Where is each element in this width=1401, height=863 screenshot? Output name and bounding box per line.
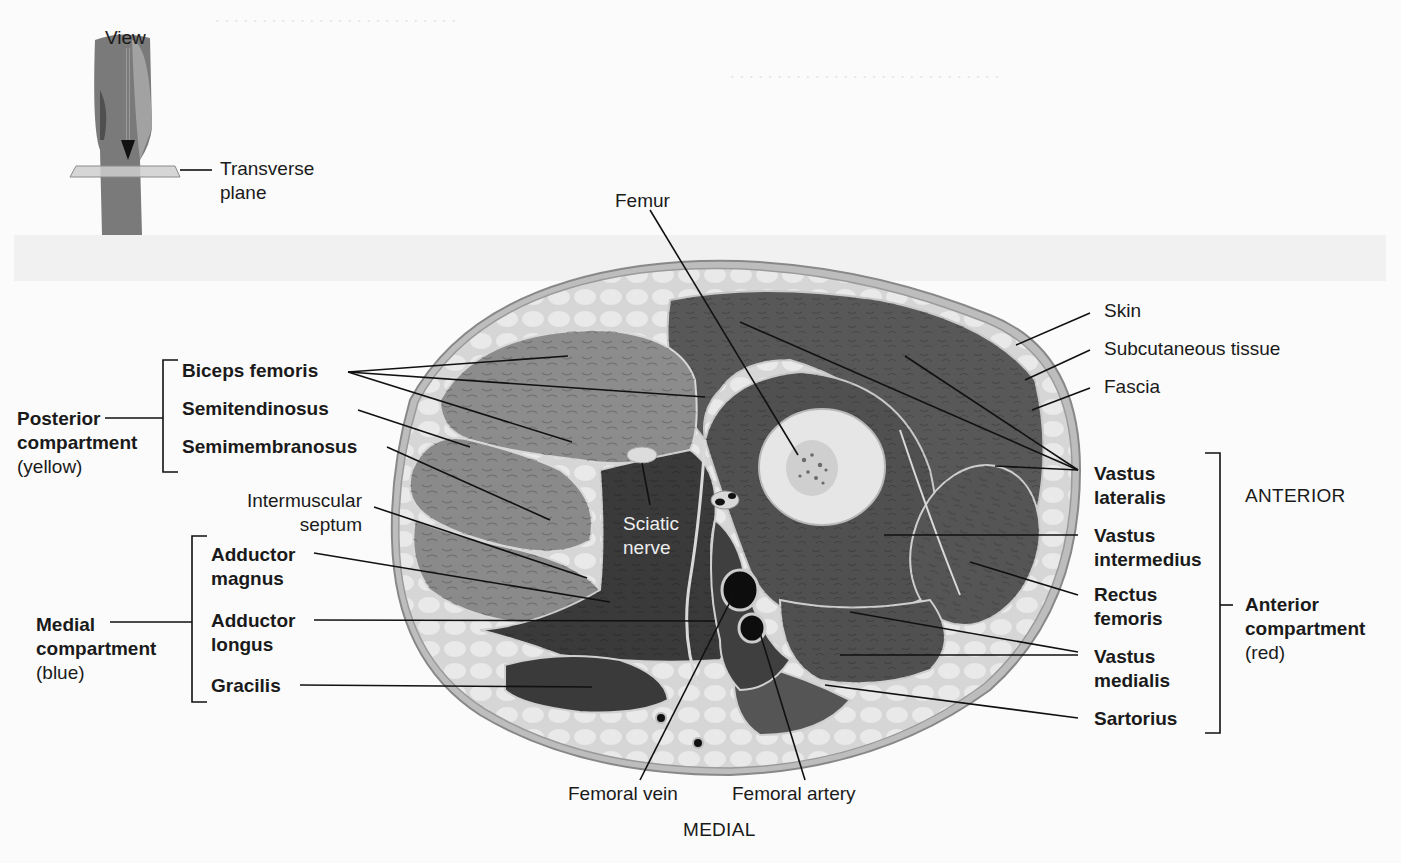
inset-leg-illustration xyxy=(70,34,212,235)
anatomy-illustration: . . . . . . . . . . . . . . . . . . . . … xyxy=(0,0,1401,863)
svg-text:. . . . . . . . . . . . . . .: . . . . . . . . . . . . . . . . . . . . … xyxy=(730,63,999,82)
posterior-compartment-color-note: (yellow) xyxy=(17,455,82,479)
anterior-compartment-label-line1: Anterior xyxy=(1245,593,1319,617)
intermuscular-septum-label-line1: Intermuscular xyxy=(200,489,362,513)
vastus-medialis-label-line1: Vastus xyxy=(1094,645,1155,669)
adductor-magnus-label-line2: magnus xyxy=(211,567,284,591)
anterior-compartment-color-note: (red) xyxy=(1245,641,1285,665)
fascia-label: Fascia xyxy=(1104,375,1160,399)
adductor-longus-label-line2: longus xyxy=(211,633,273,657)
sciatic-nerve-label-line2: nerve xyxy=(623,536,671,560)
thigh-cross-section-figure: . . . . . . . . . . . . . . . . . . . . … xyxy=(0,0,1401,863)
rectus-femoris-label-line1: Rectus xyxy=(1094,583,1157,607)
medial-orientation-label: MEDIAL xyxy=(683,818,756,842)
medial-compartment-label-line1: Medial xyxy=(36,613,95,637)
vastus-lateralis-label-line1: Vastus xyxy=(1094,462,1155,486)
biceps-femoris-label: Biceps femoris xyxy=(182,359,318,383)
adductor-longus-label-line1: Adductor xyxy=(211,609,295,633)
gracilis-label: Gracilis xyxy=(211,674,281,698)
anterior-compartment-label-line2: compartment xyxy=(1245,617,1365,641)
anterior-orientation-label: ANTERIOR xyxy=(1245,484,1346,508)
sartorius-label: Sartorius xyxy=(1094,707,1177,731)
svg-text:. . . . . . . . . . . . . . .: . . . . . . . . . . . . . . . . . . . . … xyxy=(215,7,456,26)
thigh-section xyxy=(392,261,1080,775)
posterior-compartment-label-line2: compartment xyxy=(17,431,137,455)
femoral-vein-label: Femoral vein xyxy=(568,782,678,806)
semimembranosus-label: Semimembranosus xyxy=(182,435,357,459)
femoral-vein xyxy=(722,570,758,610)
medial-compartment-color-note: (blue) xyxy=(36,661,85,685)
skin-label: Skin xyxy=(1104,299,1141,323)
background-page-bleedthrough: . . . . . . . . . . . . . . . . . . . . … xyxy=(215,7,999,82)
vastus-intermedius-label-line2: intermedius xyxy=(1094,548,1202,572)
sciatic-nerve-label-line1: Sciatic xyxy=(623,512,679,536)
posterior-compartment-label-line1: Posterior xyxy=(17,407,100,431)
semitendinosus-label: Semitendinosus xyxy=(182,397,329,421)
sciatic-nerve xyxy=(627,447,657,463)
vastus-intermedius-label-line1: Vastus xyxy=(1094,524,1155,548)
vastus-medialis-label-line2: medialis xyxy=(1094,669,1170,693)
subcutaneous-tissue-label: Subcutaneous tissue xyxy=(1104,337,1280,361)
medial-compartment-label-line2: compartment xyxy=(36,637,156,661)
transverse-plane-label-line2: plane xyxy=(220,181,267,205)
adductor-magnus-label-line1: Adductor xyxy=(211,543,295,567)
transverse-plane-label-line1: Transverse xyxy=(220,157,314,181)
rectus-femoris-label-line2: femoris xyxy=(1094,607,1163,631)
femoral-artery-label: Femoral artery xyxy=(732,782,856,806)
femur-label: Femur xyxy=(615,189,670,213)
intermuscular-septum-label-line2: septum xyxy=(200,513,362,537)
view-label: View xyxy=(105,26,146,50)
vastus-lateralis-label-line2: lateralis xyxy=(1094,486,1166,510)
